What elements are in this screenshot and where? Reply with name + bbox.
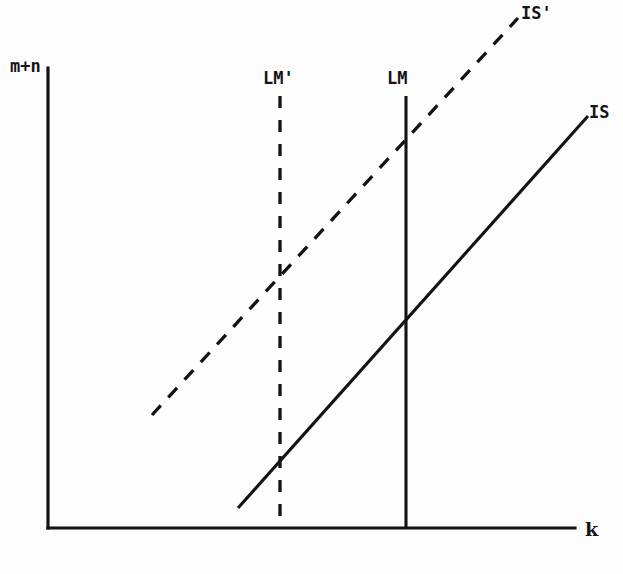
- is-curve: [238, 116, 588, 508]
- y-axis-label: m+n: [10, 58, 41, 75]
- lm-label: LM: [387, 70, 407, 87]
- caption-remnant: [228, 561, 448, 574]
- is-prime-curve: [152, 18, 518, 415]
- x-axis-label: k: [585, 520, 598, 539]
- lm-prime-label: LM': [263, 70, 294, 87]
- figure-canvas: [0, 0, 623, 574]
- is-prime-label: IS': [521, 5, 552, 22]
- is-lm-figure: m+n k IS' IS LM' LM: [0, 0, 623, 574]
- is-label: IS: [589, 104, 609, 121]
